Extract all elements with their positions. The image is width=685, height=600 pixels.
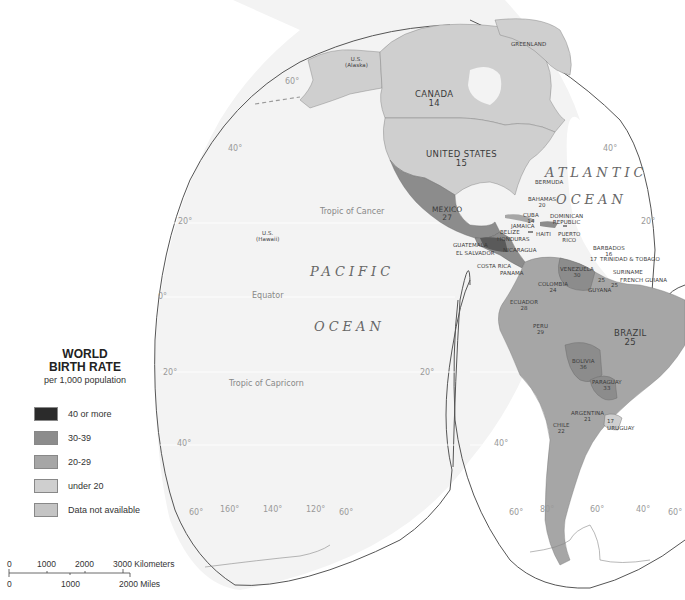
country-label-alaska: U.S.(Alaska) xyxy=(345,57,368,69)
country-label-uruguay: URUGUAY xyxy=(607,426,635,432)
legend-label: Data not available xyxy=(68,505,140,515)
country-label-greenland: GREENLAND xyxy=(511,42,546,48)
country-label-nicaragua: NICARAGUA xyxy=(503,248,537,254)
legend-swatch xyxy=(34,407,58,421)
country-label-panama: PANAMA xyxy=(500,271,524,277)
legend-item-not-available: Data not available xyxy=(34,502,140,517)
ocean-label-pacific: PACIFIC xyxy=(310,265,394,279)
country-label-mexico: MEXICO27 xyxy=(432,206,462,222)
degree-label: 20° xyxy=(420,369,434,377)
legend-label: 30-39 xyxy=(68,433,91,443)
degree-label: 20° xyxy=(641,218,655,226)
tropic-of-capricorn-label: Tropic of Capricorn xyxy=(229,380,304,388)
country-label-canada: CANADA14 xyxy=(415,90,454,108)
country-label-suriname: SURINAME xyxy=(613,270,643,276)
country-label-belize: BELIZE xyxy=(500,230,520,236)
country-label-guyana: GUYANA xyxy=(588,288,611,294)
country-label-colombia: COLOMBIA24 xyxy=(538,282,568,294)
country-label-dominican-republic: DOMINICANREPUBLIC xyxy=(550,214,583,226)
scale-mi-0: 0 xyxy=(7,579,12,589)
country-label-hawaii: U.S.(Hawaii) xyxy=(256,231,280,243)
country-label-ecuador: ECUADOR28 xyxy=(510,300,538,312)
scale-bar-lines xyxy=(9,569,130,577)
legend-swatch xyxy=(34,455,58,469)
country-label-chile: CHILE22 xyxy=(553,423,570,435)
legend-subtitle: per 1,000 population xyxy=(0,375,170,385)
country-label-suriname-rate: 25 xyxy=(598,278,605,284)
legend-item-under-20: under 20 xyxy=(34,478,104,493)
degree-label: 60° xyxy=(189,509,203,517)
degree-label: 40° xyxy=(228,145,242,153)
legend-swatch xyxy=(34,479,58,493)
country-label-trinidad-rate: 17 xyxy=(590,257,597,263)
legend: WORLD BIRTH RATE per 1,000 population xyxy=(0,348,170,385)
country-label-venezuela: VENEZUELA30 xyxy=(560,267,594,279)
legend-item-20-29: 20-29 xyxy=(34,454,91,469)
equator-label: Equator xyxy=(252,292,283,300)
degree-label: 40° xyxy=(636,506,650,514)
country-label-paraguay: PARAGUAY33 xyxy=(592,380,622,392)
degree-label: 80° xyxy=(540,506,554,514)
country-label-el-salvador: EL SALVADOR xyxy=(456,251,495,257)
legend-label: 20-29 xyxy=(68,457,91,467)
country-label-bermuda: BERMUDA xyxy=(535,180,563,186)
legend-item-30-39: 30-39 xyxy=(34,430,91,445)
legend-item-40-plus: 40 or more xyxy=(34,406,112,421)
country-label-puerto-rico: PUERTORICO xyxy=(558,232,581,244)
ocean-label-atlantic-2: OCEAN xyxy=(556,193,627,207)
country-label-honduras: HONDURAS xyxy=(497,237,530,243)
degree-label: 140° xyxy=(263,506,282,514)
degree-label: 120° xyxy=(306,506,325,514)
legend-label: under 20 xyxy=(68,481,104,491)
country-label-guatemala: GUATEMALA xyxy=(453,243,488,249)
legend-swatch xyxy=(34,503,58,517)
country-label-bahamas: BAHAMAS20 xyxy=(528,197,556,209)
country-label-argentina: ARGENTINA21 xyxy=(571,411,604,423)
legend-swatch xyxy=(34,431,58,445)
degree-label: 20° xyxy=(178,218,192,226)
degree-label: 40° xyxy=(494,440,508,448)
scale-km-2000: 2000 xyxy=(75,559,94,569)
ocean-label-pacific-2: OCEAN xyxy=(314,320,385,334)
degree-label: 40° xyxy=(177,440,191,448)
scale-mi-1000: 1000 xyxy=(61,579,80,589)
legend-title-line2: BIRTH RATE xyxy=(0,361,170,374)
country-label-bolivia: BOLIVIA36 xyxy=(572,359,595,371)
country-label-costa-rica: COSTA RICA xyxy=(477,264,511,270)
legend-label: 40 or more xyxy=(68,409,112,419)
degree-label: 60° xyxy=(668,509,682,517)
degree-label: 60° xyxy=(339,509,353,517)
degree-label: 160° xyxy=(220,506,239,514)
country-label-french-guiana: FRENCH GUIANA xyxy=(620,278,667,284)
country-label-trinidad: TRINIDAD & TOBAGO xyxy=(600,257,660,263)
country-label-uruguay-rate: 17 xyxy=(607,419,614,425)
country-label-brazil: BRAZIL25 xyxy=(614,329,647,347)
tropic-of-cancer-label: Tropic of Cancer xyxy=(320,208,384,216)
degree-label: 40° xyxy=(603,145,617,153)
degree-label: 60° xyxy=(509,509,523,517)
scale-km-1000: 1000 xyxy=(37,559,56,569)
country-label-united-states: UNITED STATES15 xyxy=(426,150,497,168)
country-label-peru: PERU29 xyxy=(533,324,548,336)
ocean-label-atlantic: ATLANTIC xyxy=(545,166,648,180)
degree-label: 60° xyxy=(285,78,299,86)
region-jamaica xyxy=(528,231,533,233)
scale-km-3000: 3000 Kilometers xyxy=(113,559,174,569)
country-label-guyana-rate: 25 xyxy=(611,283,618,289)
country-label-haiti: HAITI xyxy=(536,232,551,238)
degree-label: 60° xyxy=(590,506,604,514)
scale-km-0: 0 xyxy=(7,559,12,569)
degree-label: 0° xyxy=(158,293,167,301)
scale-mi-2000: 2000 Miles xyxy=(119,579,160,589)
